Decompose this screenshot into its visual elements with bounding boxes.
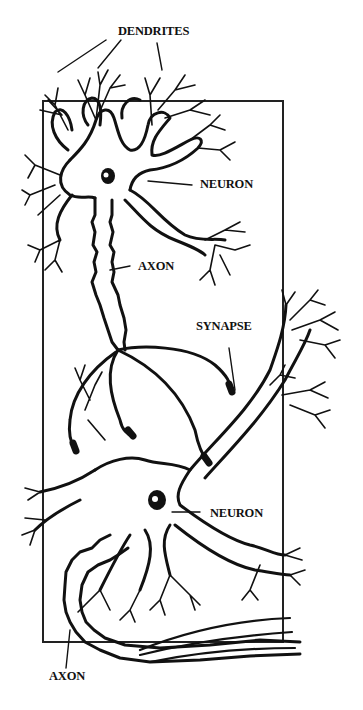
label-dendrites: DENDRITES	[118, 24, 189, 38]
label-neuron-top: NEURON	[200, 177, 253, 191]
label-neuron-bottom: NEURON	[210, 506, 263, 520]
bottom-dendrites	[22, 290, 340, 622]
bottom-nucleolus	[152, 496, 158, 502]
top-neuron	[52, 98, 225, 350]
bottom-neuron	[35, 305, 310, 662]
label-axon-bottom: AXON	[49, 669, 85, 683]
neuron-diagram: DENDRITES NEURON AXON SYNAPSE NEURON AXO…	[0, 0, 363, 710]
label-axon-top: AXON	[138, 259, 174, 273]
top-nucleolus	[104, 173, 109, 178]
diagram-svg: DENDRITES NEURON AXON SYNAPSE NEURON AXO…	[0, 0, 363, 710]
label-synapse: SYNAPSE	[196, 319, 252, 333]
axon-terminals	[69, 347, 232, 462]
